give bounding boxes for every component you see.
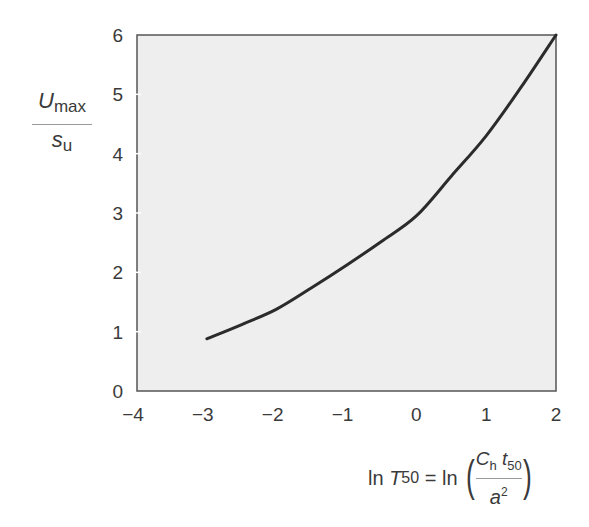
y-tick-label: 5 (112, 84, 123, 105)
x-label-fraction-denominator: a2 (490, 481, 508, 508)
x-label-paren-open: ( (466, 454, 475, 498)
y-label-fraction-bar (32, 124, 92, 125)
y-tick-label: 0 (112, 381, 123, 402)
x-tick-label: −2 (262, 404, 284, 425)
x-tick-label: −4 (122, 404, 144, 425)
x-axis-ticks: −4−3−2−1012 (122, 404, 561, 425)
x-tick-label: 2 (551, 404, 562, 425)
plot-area (137, 35, 556, 391)
x-label-t: t (497, 448, 508, 469)
x-label-C-sub: h (489, 458, 496, 473)
y-axis-label: Umax su (30, 88, 94, 159)
x-label-T-sub: 50 (401, 469, 419, 487)
x-tick-label: 1 (481, 404, 492, 425)
y-tick-label: 2 (112, 262, 123, 283)
x-label-fraction-numerator: Ch t50 (476, 448, 522, 477)
y-label-numerator: Umax (30, 88, 94, 120)
x-label-a-sup: 2 (501, 485, 508, 499)
x-label-fraction-bar (476, 478, 522, 479)
y-label-u: u (63, 136, 72, 155)
x-label-t-sub: 50 (507, 458, 521, 473)
y-tick-label: 6 (112, 25, 123, 46)
y-tick-label: 1 (112, 322, 123, 343)
x-label-ln: ln (368, 467, 384, 490)
x-tick-label: −1 (332, 404, 354, 425)
x-tick-label: 0 (411, 404, 422, 425)
y-label-max: max (54, 97, 86, 116)
x-label-fraction: Ch t50 a2 (476, 448, 522, 508)
x-label-equals-ln: = ln (419, 467, 463, 490)
x-label-C: C (476, 448, 490, 469)
x-axis-label: ln T50 = ln ( Ch t50 a2 ) (368, 448, 534, 508)
y-label-denominator: su (30, 127, 94, 159)
y-label-U: U (38, 88, 54, 113)
y-label-s: s (52, 127, 63, 152)
x-tick-label: −3 (192, 404, 214, 425)
x-label-T: T (389, 467, 401, 490)
y-tick-label: 3 (112, 203, 123, 224)
x-label-paren-close: ) (523, 454, 532, 498)
y-tick-label: 4 (112, 144, 123, 165)
x-label-a: a (490, 486, 501, 508)
